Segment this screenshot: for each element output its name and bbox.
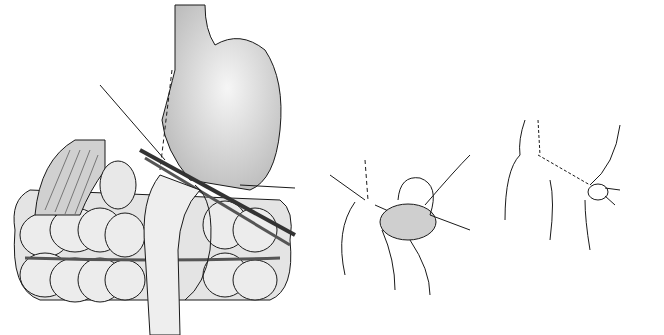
panel-3-completed-anastomosis [505,120,620,250]
panel-1-stomach-colon [14,5,295,335]
surgical-illustration [0,0,664,335]
panel-2-anastomosis [330,155,470,295]
